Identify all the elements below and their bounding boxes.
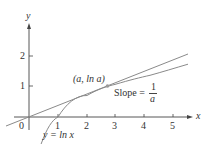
origin-label: 0 bbox=[19, 121, 24, 131]
x-axis-arrow-icon bbox=[187, 115, 193, 119]
plot-svg bbox=[0, 0, 211, 144]
tick-label-x4: 4 bbox=[141, 121, 146, 131]
slope-numerator: 1 bbox=[151, 82, 156, 92]
tangent-point bbox=[106, 84, 110, 88]
slope-denominator: a bbox=[150, 94, 155, 104]
tick-label-x3: 3 bbox=[112, 121, 117, 131]
y-axis-label: y bbox=[26, 11, 30, 21]
slope-text: Slope = bbox=[114, 88, 145, 98]
curve-label: y = ln x bbox=[43, 130, 74, 140]
figure: y x 0 1 2 3 4 5 1 2 (a, ln a) Slope = 1 … bbox=[0, 0, 211, 144]
tick-label-y2: 2 bbox=[20, 51, 25, 61]
tick-label-y1: 1 bbox=[20, 81, 25, 91]
y-axis-arrow-icon bbox=[27, 23, 31, 29]
point-label: (a, ln a) bbox=[73, 74, 105, 84]
tick-label-x2: 2 bbox=[84, 121, 89, 131]
x-axis-label: x bbox=[196, 111, 200, 121]
y-ticks bbox=[29, 56, 33, 86]
tick-label-x5: 5 bbox=[170, 121, 175, 131]
